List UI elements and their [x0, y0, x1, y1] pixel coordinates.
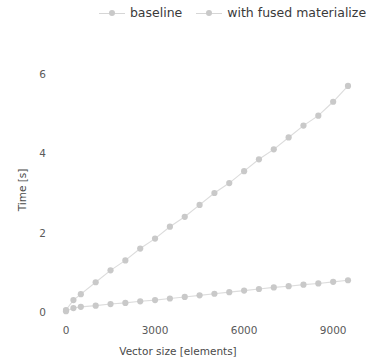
data-point — [167, 295, 173, 301]
data-point — [315, 280, 321, 286]
data-point — [152, 297, 158, 303]
data-point — [63, 308, 69, 314]
data-point — [70, 305, 76, 311]
data-point — [315, 113, 321, 119]
y-tick-label: 0 — [39, 306, 46, 318]
x-tick-label: 0 — [63, 324, 70, 336]
series-markers-with-fused-materialize — [63, 277, 351, 314]
data-point — [241, 287, 247, 293]
data-point — [137, 245, 143, 251]
data-point — [152, 236, 158, 242]
data-point — [122, 300, 128, 306]
data-point — [286, 134, 292, 140]
data-point — [256, 286, 262, 292]
y-tick-label: 6 — [39, 68, 46, 80]
data-point — [196, 292, 202, 298]
data-point — [271, 284, 277, 290]
series-line-baseline — [66, 86, 348, 310]
x-tick-label: 9000 — [320, 324, 347, 336]
data-point — [226, 289, 232, 295]
x-axis-tick-labels: 0300060009000 — [63, 324, 347, 336]
data-point — [107, 267, 113, 273]
data-point — [167, 224, 173, 230]
data-point — [330, 99, 336, 105]
y-axis-tick-labels: 0246 — [39, 68, 46, 318]
data-point — [300, 282, 306, 288]
data-point — [241, 168, 247, 174]
data-point — [211, 190, 217, 196]
data-point — [122, 257, 128, 263]
data-point — [107, 301, 113, 307]
data-point — [196, 202, 202, 208]
x-tick-label: 3000 — [142, 324, 169, 336]
data-point — [345, 277, 351, 283]
data-point — [256, 156, 262, 162]
series-markers-baseline — [63, 83, 351, 313]
y-tick-label: 2 — [39, 227, 46, 239]
data-point — [300, 122, 306, 128]
data-point — [93, 279, 99, 285]
y-tick-label: 4 — [39, 147, 46, 159]
data-point — [286, 283, 292, 289]
data-point — [330, 279, 336, 285]
series-group — [63, 83, 351, 315]
data-point — [182, 294, 188, 300]
data-point — [70, 297, 76, 303]
data-point — [182, 214, 188, 220]
data-point — [271, 146, 277, 152]
x-tick-label: 6000 — [231, 324, 258, 336]
x-axis-title: Vector size [elements] — [119, 345, 236, 357]
data-point — [78, 291, 84, 297]
data-point — [78, 304, 84, 310]
y-axis-title: Time [s] — [16, 169, 28, 213]
data-point — [226, 180, 232, 186]
data-point — [211, 291, 217, 297]
data-point — [137, 298, 143, 304]
data-point — [345, 83, 351, 89]
data-point — [93, 303, 99, 309]
